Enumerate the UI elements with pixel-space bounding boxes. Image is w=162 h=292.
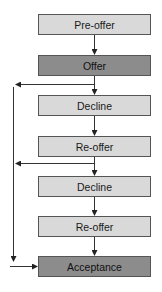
node-label: Decline <box>77 100 112 112</box>
node-label: Offer <box>83 60 106 72</box>
node-re-offer-2: Re-offer <box>38 216 151 237</box>
node-pre-offer: Pre-offer <box>38 14 151 35</box>
node-label: Re-offer <box>76 221 114 233</box>
node-decline-2: Decline <box>38 176 151 197</box>
node-label: Pre-offer <box>74 19 115 31</box>
node-re-offer-1: Re-offer <box>38 136 151 157</box>
node-offer: Offer <box>38 55 151 76</box>
node-label: Acceptance <box>67 261 122 273</box>
node-label: Re-offer <box>76 141 114 153</box>
node-acceptance: Acceptance <box>38 256 151 277</box>
node-decline-1: Decline <box>38 95 151 116</box>
node-label: Decline <box>77 181 112 193</box>
